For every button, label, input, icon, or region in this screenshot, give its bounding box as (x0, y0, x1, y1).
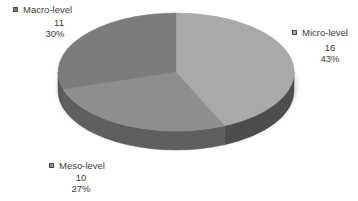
label-macro-level: Macro-level (13, 4, 72, 15)
label-macro-name: Macro-level (23, 4, 72, 15)
label-meso-name: Meso-level (59, 160, 105, 171)
label-macro-pct: 30% (35, 28, 75, 39)
label-meso-level: Meso-level (49, 160, 105, 171)
label-meso-pct: 27% (61, 183, 101, 194)
label-micro-value: 16 (310, 42, 350, 53)
label-micro-name: Micro-level (302, 27, 348, 38)
label-micro-level: Micro-level (292, 27, 348, 38)
label-macro-value: 11 (39, 17, 79, 28)
label-micro-pct: 43% (310, 53, 350, 64)
legend-marker-meso-icon (49, 163, 54, 168)
legend-marker-micro-icon (292, 30, 297, 35)
pie-chart: Macro-level 11 30% Micro-level 16 43% Me… (0, 0, 358, 201)
label-meso-value: 10 (61, 172, 101, 183)
legend-marker-macro-icon (13, 7, 18, 12)
